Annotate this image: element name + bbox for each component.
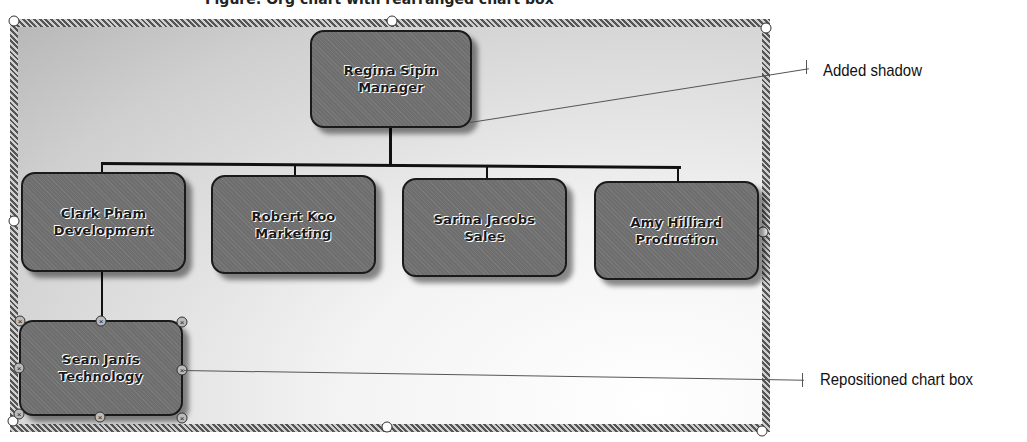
report-title: Marketing — [255, 225, 331, 242]
manager-name: Regina Sipin — [344, 62, 438, 79]
selection-handle-top-middle[interactable]: × — [96, 316, 107, 327]
connector-sarina — [486, 165, 488, 179]
selection-handle-top-left[interactable]: × — [15, 316, 26, 327]
callout-tick-reposition — [802, 373, 803, 387]
chart-box-manager[interactable]: Regina Sipin Manager — [310, 30, 472, 128]
report-title: Sales — [464, 228, 504, 245]
resize-handle-bottom-right[interactable] — [757, 426, 768, 437]
report-name: Clark Pham — [61, 205, 146, 222]
chart-box-amy[interactable]: Amy Hilliard Production — [594, 181, 759, 280]
selection-handle-bottom-left[interactable]: × — [14, 409, 25, 420]
resize-handle-right-middle[interactable] — [758, 227, 769, 238]
subordinate-title: Technology — [59, 368, 143, 385]
chart-box-sean-selected[interactable]: Sean Janis Technology — [19, 320, 183, 416]
chart-box-clark[interactable]: Clark Pham Development — [21, 172, 186, 272]
selection-handle-bottom-middle[interactable]: × — [95, 412, 106, 423]
report-title: Development — [54, 222, 154, 239]
connector-amy — [677, 166, 679, 182]
chart-box-sarina[interactable]: Sarina Jacobs Sales — [402, 178, 567, 277]
resize-handle-top-left[interactable] — [9, 16, 20, 27]
callout-tick-shadow — [806, 60, 807, 74]
resize-handle-top-right[interactable] — [761, 23, 772, 34]
report-name: Amy Hilliard — [630, 214, 722, 231]
selection-handle-left-middle[interactable]: × — [14, 363, 25, 374]
connector-clark-sean — [101, 272, 103, 322]
selection-handle-bottom-right[interactable]: × — [177, 413, 188, 424]
manager-title: Manager — [358, 79, 424, 96]
resize-handle-bottom-middle[interactable] — [382, 422, 393, 433]
callout-added-shadow: Added shadow — [823, 61, 922, 81]
report-name: Robert Koo — [252, 208, 336, 225]
resize-handle-top-middle[interactable] — [387, 16, 398, 27]
resize-handle-left-middle[interactable] — [9, 216, 20, 227]
selection-handle-top-right[interactable]: × — [177, 317, 188, 328]
report-name: Sarina Jacobs — [434, 211, 535, 228]
subordinate-name: Sean Janis — [62, 351, 140, 368]
figure-caption: Figure: Org chart with rearranged chart … — [205, 0, 554, 7]
report-title: Production — [636, 231, 718, 248]
chart-box-robert[interactable]: Robert Koo Marketing — [211, 175, 376, 274]
callout-repositioned-chart-box: Repositioned chart box — [820, 370, 973, 390]
connector-manager-vertical — [389, 128, 392, 164]
